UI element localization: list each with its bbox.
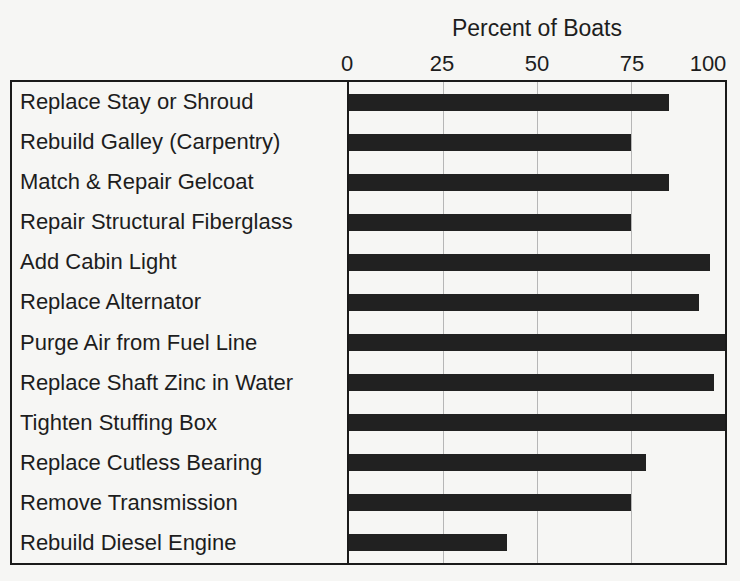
x-axis-tick-label: 50 bbox=[525, 51, 549, 77]
bar-row bbox=[349, 322, 725, 362]
bar-row bbox=[349, 242, 725, 282]
bar-row bbox=[349, 483, 725, 523]
bar-chart-figure: Percent of Boats 0255075100 Replace Stay… bbox=[0, 0, 740, 581]
chart-frame: Replace Stay or ShroudRebuild Galley (Ca… bbox=[10, 80, 727, 565]
category-label: Remove Transmission bbox=[12, 483, 347, 523]
category-label: Replace Shaft Zinc in Water bbox=[12, 363, 347, 403]
bar-row bbox=[349, 202, 725, 242]
x-axis-ticks: 0255075100 bbox=[347, 51, 727, 77]
bar bbox=[349, 334, 725, 351]
bar-row bbox=[349, 363, 725, 403]
bar-row bbox=[349, 523, 725, 563]
bar-row bbox=[349, 82, 725, 122]
bar-row bbox=[349, 403, 725, 443]
bar-row bbox=[349, 282, 725, 322]
bar-row bbox=[349, 443, 725, 483]
bar bbox=[349, 374, 714, 391]
category-label: Purge Air from Fuel Line bbox=[12, 322, 347, 362]
x-axis-tick-label: 0 bbox=[341, 51, 353, 77]
plot-area bbox=[347, 82, 725, 563]
x-axis-tick-label: 25 bbox=[430, 51, 454, 77]
bar bbox=[349, 134, 631, 151]
bar bbox=[349, 94, 669, 111]
bar bbox=[349, 494, 631, 511]
category-label: Rebuild Galley (Carpentry) bbox=[12, 122, 347, 162]
bar bbox=[349, 174, 669, 191]
bar bbox=[349, 254, 710, 271]
bar bbox=[349, 454, 646, 471]
category-label: Repair Structural Fiberglass bbox=[12, 202, 347, 242]
chart-title: Percent of Boats bbox=[347, 15, 727, 42]
bar-row bbox=[349, 162, 725, 202]
bar bbox=[349, 534, 507, 551]
bar bbox=[349, 294, 699, 311]
bar bbox=[349, 214, 631, 231]
category-label: Match & Repair Gelcoat bbox=[12, 162, 347, 202]
x-axis-tick-label: 100 bbox=[690, 51, 727, 77]
category-label: Rebuild Diesel Engine bbox=[12, 523, 347, 563]
category-label: Replace Alternator bbox=[12, 282, 347, 322]
category-labels: Replace Stay or ShroudRebuild Galley (Ca… bbox=[12, 82, 347, 563]
bar bbox=[349, 414, 725, 431]
x-axis-tick-label: 75 bbox=[620, 51, 644, 77]
category-label: Add Cabin Light bbox=[12, 242, 347, 282]
bar-row bbox=[349, 122, 725, 162]
category-label: Tighten Stuffing Box bbox=[12, 403, 347, 443]
category-label: Replace Cutless Bearing bbox=[12, 443, 347, 483]
category-label: Replace Stay or Shroud bbox=[12, 82, 347, 122]
